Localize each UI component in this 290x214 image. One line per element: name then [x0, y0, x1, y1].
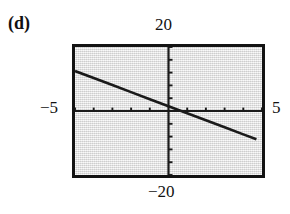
figure-panel: (d) 20 −20 −5 5 [0, 0, 290, 214]
data-series [75, 71, 256, 139]
x-axis-min-label: −5 [40, 99, 58, 116]
y-axis-max-label: 20 [155, 16, 172, 33]
part-label: (d) [8, 14, 30, 32]
x-axis-max-label: 5 [272, 99, 281, 116]
plot-canvas [75, 47, 262, 175]
plot-frame [72, 44, 265, 178]
y-axis-min-label: −20 [148, 183, 175, 200]
